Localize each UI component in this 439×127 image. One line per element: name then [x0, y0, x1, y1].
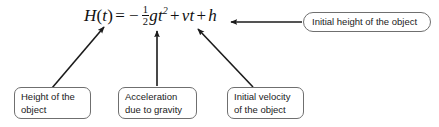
callout-initial-height: Initial height of the object: [303, 12, 431, 32]
equation-equals-sign: =: [113, 6, 127, 25]
equation-minus-sign: −: [127, 6, 141, 25]
arrow-to-ht-icon: [52, 27, 104, 88]
callout-acceleration-line-1: Acceleration: [125, 91, 191, 104]
callout-height-line-2: object: [21, 104, 85, 117]
callout-velocity-line-1: Initial velocity: [234, 91, 298, 104]
callout-initial-velocity: Initial velocity of the object: [227, 87, 304, 119]
equation-gravity-symbol: g: [149, 6, 158, 25]
equation-velocity-symbol: v: [182, 6, 190, 25]
callout-initial-height-line-1: Initial height of the object: [312, 13, 422, 31]
projectile-equation-diagram: H(t)=−12gt2+vt+h Height of the object Ac…: [0, 0, 439, 127]
equation-height-symbol: h: [208, 6, 217, 25]
equation-plus-sign-1: +: [168, 6, 182, 25]
equation-velocity-time-symbol: t: [190, 6, 195, 25]
callout-height-of-object: Height of the object: [14, 87, 91, 119]
equation-plus-sign-2: +: [195, 6, 209, 25]
callout-acceleration-due-to-gravity: Acceleration due to gravity: [118, 87, 197, 119]
callout-velocity-line-2: of the object: [234, 104, 298, 117]
equation-function-symbol: H: [84, 6, 96, 25]
callout-acceleration-line-2: due to gravity: [125, 104, 191, 117]
callout-height-line-1: Height of the: [21, 91, 85, 104]
equation-expression: H(t)=−12gt2+vt+h: [84, 4, 217, 27]
arrow-to-vt-icon: [198, 29, 253, 87]
